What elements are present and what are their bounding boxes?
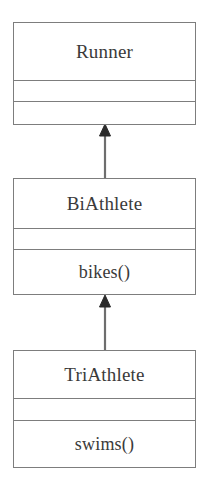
class-operations-compartment: bikes()	[14, 249, 195, 294]
uml-class-triathlete[interactable]: TriAthlete swims()	[13, 350, 196, 468]
uml-class-runner[interactable]: Runner	[13, 22, 196, 125]
connector-triathlete-to-biathlete	[100, 295, 111, 350]
inheritance-arrowhead-icon	[100, 124, 111, 136]
class-name-compartment: Runner	[14, 23, 195, 80]
class-operations-label: bikes()	[79, 263, 130, 281]
connector-biathlete-to-runner	[100, 124, 111, 178]
class-operations-compartment: swims()	[14, 420, 195, 467]
class-name-label: Runner	[76, 42, 133, 61]
class-operations-compartment	[14, 101, 195, 124]
class-attributes-compartment	[14, 80, 195, 101]
inheritance-arrowhead-icon	[100, 295, 111, 307]
class-name-compartment: BiAthlete	[14, 179, 195, 228]
class-name-label: TriAthlete	[64, 365, 144, 384]
class-attributes-compartment	[14, 398, 195, 420]
class-attributes-compartment	[14, 228, 195, 249]
class-name-compartment: TriAthlete	[14, 351, 195, 398]
uml-class-biathlete[interactable]: BiAthlete bikes()	[13, 178, 196, 295]
class-name-label: BiAthlete	[67, 194, 143, 213]
class-operations-label: swims()	[75, 435, 134, 453]
uml-class-diagram: Runner BiAthlete bikes() TriAthlete swim…	[0, 0, 211, 490]
